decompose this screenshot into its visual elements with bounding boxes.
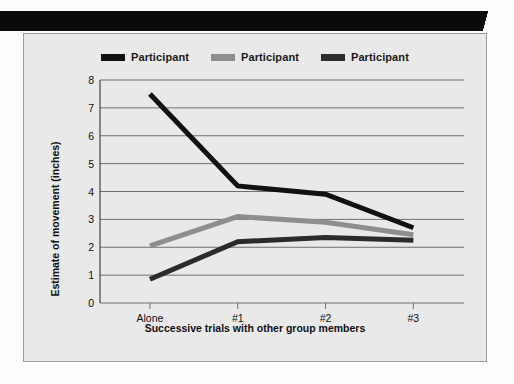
- y-tick-label: 8: [72, 74, 94, 86]
- y-tick-label: 0: [72, 297, 94, 309]
- series-line-1: [150, 94, 413, 228]
- chart-panel: Participant Participant Participant 0123…: [23, 33, 487, 362]
- plot-area: 012345678 Alone#1#2#3: [24, 34, 486, 361]
- y-tick-label: 7: [72, 102, 94, 114]
- figure-page: Participant Participant Participant 0123…: [0, 0, 514, 384]
- series-line-3: [150, 237, 413, 279]
- y-tick-label: 6: [72, 130, 94, 142]
- x-axis-title: Successive trials with other group membe…: [24, 322, 486, 334]
- y-tick-label: 1: [72, 269, 94, 281]
- y-tick-label: 5: [72, 158, 94, 170]
- y-tick-label: 4: [72, 186, 94, 198]
- scan-top-bar: [0, 11, 491, 31]
- y-tick-label: 3: [72, 213, 94, 225]
- y-axis-title: Estimate of movement (inches): [49, 141, 61, 296]
- y-tick-label: 2: [72, 241, 94, 253]
- scan-top-bar-taper: [478, 11, 491, 31]
